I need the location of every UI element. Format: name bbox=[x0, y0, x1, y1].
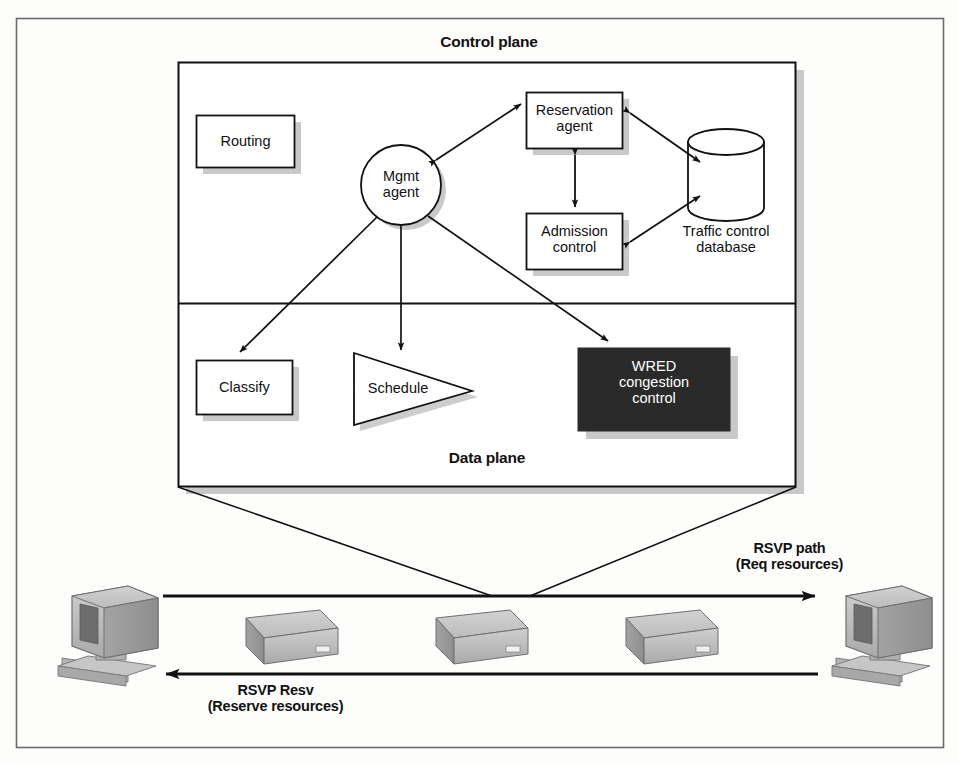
node-reservation-agent[interactable] bbox=[527, 93, 630, 156]
node-routing[interactable] bbox=[197, 116, 302, 175]
device-host-right[interactable] bbox=[832, 586, 932, 686]
node-wred-congestion-control[interactable] bbox=[578, 348, 738, 439]
diagram-canvas: Control plane Data plane Routing Mgmt ag… bbox=[0, 0, 958, 763]
node-classify[interactable] bbox=[197, 361, 300, 422]
device-router-3[interactable] bbox=[626, 610, 718, 664]
perspective-lines bbox=[178, 487, 796, 596]
diagram-vector-layer bbox=[0, 0, 958, 763]
node-traffic-control-database[interactable] bbox=[688, 129, 764, 221]
device-host-left[interactable] bbox=[58, 586, 158, 686]
device-router-2[interactable] bbox=[436, 610, 528, 664]
node-admission-control[interactable] bbox=[527, 214, 630, 277]
device-router-1[interactable] bbox=[246, 610, 338, 664]
